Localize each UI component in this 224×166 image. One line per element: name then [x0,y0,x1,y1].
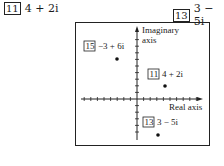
real-axis-label: Real axis [169,102,203,112]
imaginary-axis-label-line2: axis [142,35,157,45]
axis-ticks [84,40,196,132]
imaginary-axis-label-line1: Imaginary [142,25,179,35]
point-expression: −3 + 6i [98,41,125,51]
complex-plane-diagram: Imaginary axis Real axis 15 −3 + 6i 11 4… [0,0,224,166]
point-marker [115,57,119,61]
point-expression: 3 − 5i [157,117,179,127]
point-number: 15 [86,41,96,51]
point-number: 13 [145,117,155,127]
point-expression: 4 + 2i [162,69,184,79]
point-marker [163,84,167,88]
imaginary-axis-arrow-icon [135,26,139,32]
real-axis-arrow-icon [197,97,203,101]
point-marker [156,133,160,137]
point-number: 11 [150,69,159,79]
